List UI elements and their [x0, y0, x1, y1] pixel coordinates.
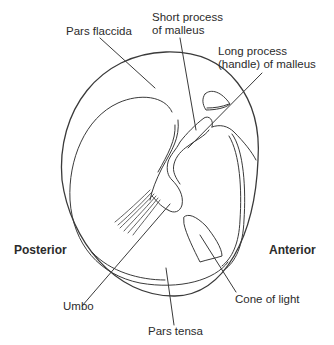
short-process-triangle-inner: [207, 104, 229, 108]
malleus-outline-2: [173, 130, 209, 184]
label-posterior: Posterior: [14, 244, 67, 257]
label-short-process-line1: Short process: [152, 11, 223, 24]
label-pars-flaccida: Pars flaccida: [66, 25, 132, 38]
cone-of-light-shape: [184, 215, 222, 262]
label-short-process: Short process of malleus: [152, 11, 223, 37]
annulus-anterior-top: [212, 126, 256, 160]
label-long-process-line1: Long process: [218, 45, 316, 58]
label-umbo: Umbo: [63, 300, 94, 313]
leader-pars-flaccida: [100, 38, 155, 88]
label-short-process-line2: of malleus: [152, 24, 223, 37]
label-long-process: Long process (handle) of malleus: [218, 45, 316, 71]
leader-short-process: [180, 38, 196, 130]
label-pars-tensa: Pars tensa: [148, 325, 203, 338]
label-long-process-line2: (handle) of malleus: [218, 58, 316, 71]
annulus-inner-posterior-2: [92, 252, 165, 280]
leader-long-process: [188, 73, 262, 148]
label-anterior: Anterior: [269, 244, 316, 257]
label-cone-of-light: Cone of light: [235, 293, 300, 306]
annulus-inner-anterior-2: [222, 136, 241, 266]
